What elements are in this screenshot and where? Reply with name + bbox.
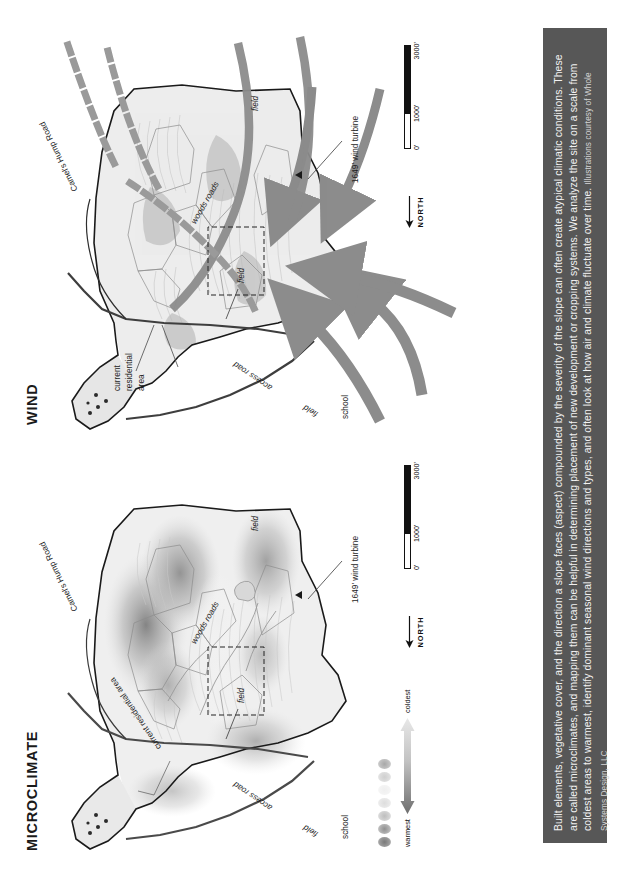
legend-dot-5 — [378, 772, 391, 782]
scale-track-wind — [404, 45, 411, 149]
illustration-sheet: MICROCLIMATE — [0, 0, 623, 871]
legend-dot-0 — [378, 837, 391, 847]
legend-gradient-row: warmest — [400, 690, 415, 847]
panel-title-wind: WIND — [24, 384, 40, 425]
scale-tick-0-wind: 0' — [412, 145, 421, 150]
scale-fill-wind — [405, 46, 410, 114]
scale-tick-1-wind: 1000' — [412, 105, 421, 122]
label-field-wind-3: field — [250, 96, 260, 111]
scale-ticks-micro: 0' 1000' 3000' — [411, 465, 422, 569]
panel-title-microclimate: MICROCLIMATE — [24, 731, 40, 851]
map-wind: Camel's Hump Road current residential ar… — [50, 21, 520, 441]
scale-fill-micro — [405, 466, 410, 534]
label-field-micro-3: field — [250, 516, 260, 531]
page-root: MICROCLIMATE — [0, 0, 623, 871]
label-school-wind: school — [340, 395, 350, 419]
north-arrow-icon-wind — [404, 195, 415, 229]
panel-wind: WIND — [6, 21, 526, 441]
label-field-micro-2: field — [236, 688, 246, 703]
legend-dot-6 — [378, 759, 391, 769]
north-label-wind: NORTH — [416, 195, 425, 229]
scale-tick-0-micro: 0' — [412, 565, 421, 570]
north-arrow-microclimate: NORTH — [404, 615, 425, 649]
label-current-residential-area-wind-l3: area — [136, 374, 146, 391]
scale-track-micro — [404, 465, 411, 569]
map-microclimate: Camel's Hump Road current residential ar… — [50, 441, 520, 861]
scale-tick-1-micro: 1000' — [412, 525, 421, 542]
north-label-microclimate: NORTH — [416, 615, 425, 649]
north-arrow-wind: NORTH — [404, 195, 425, 229]
label-school-micro: school — [340, 815, 350, 839]
label-wind-turbine-micro: 1649' wind turbine — [350, 536, 360, 603]
scale-tick-2-wind: 3000' — [412, 42, 421, 59]
north-arrow-icon — [404, 615, 415, 649]
legend-label-warmest: warmest — [403, 819, 412, 847]
legend-dot-3 — [378, 798, 391, 808]
label-field-wind-2: field — [236, 268, 246, 283]
legend-dot-2 — [378, 811, 391, 821]
scale-tick-2-micro: 3000' — [412, 462, 421, 479]
scale-bar-wind: 0' 1000' 3000' — [404, 45, 422, 149]
label-wind-turbine-wind: 1649' wind turbine — [350, 116, 360, 183]
legend-dot-swatches — [378, 690, 391, 847]
caption-bar: Built elements, vegetative cover, and th… — [543, 28, 607, 843]
legend-dot-4 — [378, 785, 391, 795]
scale-bar-microclimate: 0' 1000' 3000' — [404, 465, 422, 569]
legend-label-coldest: coldest — [403, 690, 412, 713]
legend-gradient-arrow — [400, 718, 415, 814]
label-current-residential-area-wind-l1: current — [112, 365, 122, 391]
legend-microclimate: warmest — [378, 690, 415, 847]
legend-dot-1 — [378, 824, 391, 834]
panel-microclimate: MICROCLIMATE — [6, 441, 526, 861]
label-current-residential-area-wind-l2: residential — [124, 353, 134, 391]
scale-ticks-wind: 0' 1000' 3000' — [411, 45, 422, 149]
